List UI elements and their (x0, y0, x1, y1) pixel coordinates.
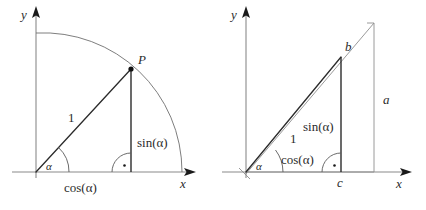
right-hypotenuse-length-label: 1 (290, 131, 297, 146)
left-diagram-unit-circle: y x P α 1 sin(α) cos( (12, 6, 196, 195)
right-y-axis-label: y (229, 7, 237, 22)
right-diagram-similar-triangles: y x α 1 sin(α) cos(α) (222, 6, 412, 191)
right-right-angle-arc (322, 153, 341, 172)
left-y-axis-label: y (19, 7, 27, 22)
right-alpha-label: α (256, 160, 262, 172)
figure-canvas: y x P α 1 sin(α) cos( (0, 0, 426, 210)
unit-circle-arc (36, 33, 182, 172)
point-p-dot (128, 66, 133, 71)
left-cosine-label: cos(α) (64, 180, 97, 195)
right-x-axis-label: x (395, 176, 402, 191)
outer-hypotenuse-point-label: b (345, 39, 352, 54)
right-right-angle-dot (333, 164, 336, 167)
left-alpha-label: α (46, 160, 52, 172)
right-cosine-label: cos(α) (281, 152, 314, 167)
left-sine-label: sin(α) (137, 135, 168, 150)
left-right-angle-dot (123, 164, 126, 167)
left-x-axis-label: x (179, 176, 186, 191)
right-sine-label: sin(α) (303, 119, 334, 134)
point-p-label: P (137, 52, 146, 67)
trigonometry-figure: y x P α 1 sin(α) cos( (0, 0, 426, 210)
inner-adjacent-point-label: c (337, 175, 343, 190)
outer-opposite-label: a (383, 92, 390, 107)
radius-segment (36, 69, 131, 172)
left-alpha-angle-arc (59, 148, 70, 173)
left-right-angle-arc (112, 153, 131, 172)
left-radius-length-label: 1 (68, 110, 75, 125)
